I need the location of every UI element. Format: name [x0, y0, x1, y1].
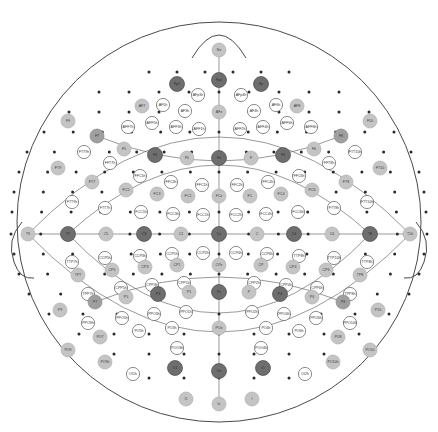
- electrode-marker[interactable]: AFF3h: [169, 120, 182, 133]
- electrode-marker[interactable]: F5: [117, 142, 131, 156]
- electrode-marker[interactable]: Cz: [212, 227, 227, 242]
- electrode-marker[interactable]: FTT7h: [98, 201, 111, 214]
- electrode-marker[interactable]: Nz: [212, 43, 226, 57]
- electrode-marker[interactable]: FC: [243, 189, 257, 203]
- electrode-marker[interactable]: F6: [307, 142, 321, 156]
- electrode-marker[interactable]: PPO1h: [179, 305, 192, 318]
- electrode-marker[interactable]: FC4: [274, 187, 288, 201]
- electrode-marker[interactable]: FCC6h: [291, 205, 304, 218]
- electrode-marker[interactable]: AF8: [290, 99, 304, 113]
- electrode-marker[interactable]: CP3: [138, 260, 152, 274]
- electrode-marker[interactable]: Oz: [212, 364, 227, 379]
- electrode-marker[interactable]: P4: [273, 287, 288, 302]
- electrode-marker[interactable]: FTT10h: [360, 195, 373, 208]
- electrode-marker[interactable]: FC1: [181, 189, 195, 203]
- electrode-marker[interactable]: F9: [61, 114, 75, 128]
- electrode-marker[interactable]: PO6h: [292, 324, 305, 337]
- electrode-marker[interactable]: PO9h: [98, 355, 112, 369]
- electrode-marker[interactable]: PPO3h: [147, 307, 160, 320]
- electrode-marker[interactable]: FT9: [51, 161, 65, 175]
- electrode-marker[interactable]: FCz: [212, 189, 226, 203]
- electrode-marker[interactable]: FT8: [339, 175, 353, 189]
- electrode-marker[interactable]: FFC5h: [133, 169, 146, 182]
- electrode-marker[interactable]: OI1h: [126, 367, 139, 380]
- electrode-marker[interactable]: FCC5h: [134, 205, 147, 218]
- electrode-marker[interactable]: P: [242, 285, 256, 299]
- electrode-marker[interactable]: POz: [212, 321, 226, 335]
- electrode-marker[interactable]: FCC1h: [196, 208, 209, 221]
- electrode-marker[interactable]: CP: [254, 258, 268, 272]
- electrode-marker[interactable]: FFC2h: [230, 178, 243, 191]
- electrode-marker[interactable]: PO10h: [326, 355, 340, 369]
- electrode-marker[interactable]: FC3: [150, 187, 164, 201]
- electrode-marker[interactable]: FFT8h: [322, 156, 335, 169]
- electrode-marker[interactable]: Pz: [212, 285, 227, 300]
- electrode-marker[interactable]: AFz: [212, 105, 226, 119]
- electrode-marker[interactable]: F10: [363, 114, 377, 128]
- electrode-marker[interactable]: PPO2h: [245, 305, 258, 318]
- electrode-marker[interactable]: AFF6h: [280, 116, 293, 129]
- electrode-marker[interactable]: F8: [334, 129, 348, 143]
- electrode-marker[interactable]: C1: [174, 227, 188, 241]
- electrode-marker[interactable]: C6: [325, 227, 339, 241]
- electrode-marker[interactable]: AF5h: [156, 98, 169, 111]
- electrode-marker[interactable]: CP6: [319, 263, 333, 277]
- electrode-marker[interactable]: FTT9h: [77, 145, 90, 158]
- electrode-marker[interactable]: O1: [168, 361, 183, 376]
- electrode-marker[interactable]: Fp1: [170, 77, 185, 92]
- electrode-marker[interactable]: Fp: [254, 77, 269, 92]
- electrode-marker[interactable]: CP4: [286, 260, 300, 274]
- electrode-marker[interactable]: PO4h: [259, 321, 272, 334]
- electrode-marker[interactable]: P10: [371, 303, 385, 317]
- electrode-marker[interactable]: AFF2h: [233, 122, 246, 135]
- electrode-marker[interactable]: OI2h: [298, 367, 311, 380]
- electrode-marker[interactable]: F7: [90, 129, 104, 143]
- electrode-marker[interactable]: PO10: [363, 343, 377, 357]
- electrode-marker[interactable]: F: [244, 151, 258, 165]
- electrode-marker[interactable]: T8: [363, 227, 378, 242]
- electrode-marker[interactable]: P7: [88, 295, 102, 309]
- electrode-marker[interactable]: FCC3h: [166, 207, 179, 220]
- electrode-marker[interactable]: Fpz: [212, 73, 227, 88]
- electrode-marker[interactable]: C: [250, 227, 264, 241]
- electrode-marker[interactable]: P8: [336, 295, 350, 309]
- electrode-marker[interactable]: CCP5h: [98, 251, 111, 264]
- electrode-marker[interactable]: F4: [276, 148, 291, 163]
- electrode-marker[interactable]: CCP4h: [229, 246, 242, 259]
- electrode-marker[interactable]: FC5: [119, 183, 133, 197]
- electrode-marker[interactable]: PO7: [93, 330, 107, 344]
- electrode-marker[interactable]: CCP2h: [196, 246, 209, 259]
- electrode-marker[interactable]: PO9: [61, 343, 75, 357]
- electrode-marker[interactable]: T9: [21, 227, 35, 241]
- electrode-marker[interactable]: AF7: [135, 99, 149, 113]
- electrode-marker[interactable]: T7: [61, 227, 76, 242]
- electrode-marker[interactable]: FT10: [373, 161, 387, 175]
- electrode-marker[interactable]: TTP8h: [360, 255, 373, 268]
- electrode-marker[interactable]: F1: [180, 151, 194, 165]
- electrode-marker[interactable]: FC6: [305, 183, 319, 197]
- electrode-marker[interactable]: FCC2h: [229, 208, 242, 221]
- electrode-marker[interactable]: AFF7h: [121, 120, 134, 133]
- electrode-marker[interactable]: PO5h: [132, 324, 145, 337]
- electrode-marker[interactable]: PPO6h: [309, 311, 322, 324]
- electrode-marker[interactable]: AFF4h: [256, 120, 269, 133]
- electrode-marker[interactable]: P9: [53, 303, 67, 317]
- electrode-marker[interactable]: PPO9h: [81, 316, 94, 329]
- electrode-marker[interactable]: PO8: [331, 330, 345, 344]
- electrode-marker[interactable]: C5: [99, 227, 113, 241]
- electrode-marker[interactable]: FFC6h: [292, 169, 305, 182]
- electrode-marker[interactable]: F3: [148, 148, 163, 163]
- electrode-marker[interactable]: CPz: [212, 258, 226, 272]
- electrode-marker[interactable]: AF3h: [178, 104, 191, 117]
- electrode-marker[interactable]: C3: [137, 227, 152, 242]
- electrode-marker[interactable]: POO3h: [170, 341, 183, 354]
- electrode-marker[interactable]: FTT8h: [327, 201, 340, 214]
- electrode-marker[interactable]: P3: [151, 287, 166, 302]
- electrode-marker[interactable]: FFC4h: [261, 175, 274, 188]
- electrode-marker[interactable]: C4: [287, 227, 302, 242]
- electrode-marker[interactable]: PO3h: [165, 321, 178, 334]
- electrode-marker[interactable]: PPO4h: [277, 307, 290, 320]
- electrode-marker[interactable]: O: [256, 361, 271, 376]
- electrode-marker[interactable]: FCC4h: [259, 207, 272, 220]
- electrode-marker[interactable]: FT7: [85, 175, 99, 189]
